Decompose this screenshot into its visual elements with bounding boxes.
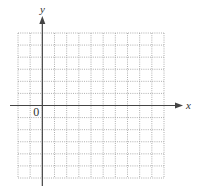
axes	[10, 16, 183, 186]
y-axis-arrow-icon	[39, 16, 45, 24]
x-axis-label: x	[185, 99, 191, 111]
y-axis-label: y	[39, 3, 45, 15]
origin-label: 0	[33, 105, 39, 119]
coordinate-plane: y x 0	[0, 0, 198, 196]
x-axis-arrow-icon	[175, 103, 183, 109]
